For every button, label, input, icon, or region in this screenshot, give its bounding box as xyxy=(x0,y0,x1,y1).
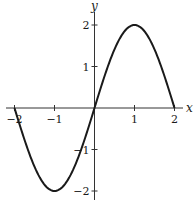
y-tick-label: 2 xyxy=(83,19,90,32)
y-tick-label: −2 xyxy=(73,185,89,198)
y-axis-label: y xyxy=(90,0,98,13)
y-tick-label: 1 xyxy=(83,61,90,74)
x-tick-label: 1 xyxy=(131,113,138,126)
x-tick-label: −1 xyxy=(46,113,62,126)
x-tick-label: 2 xyxy=(171,113,178,126)
x-axis-label: x xyxy=(186,101,193,115)
function-plot: −2−112 −2−112 x y xyxy=(0,0,196,205)
